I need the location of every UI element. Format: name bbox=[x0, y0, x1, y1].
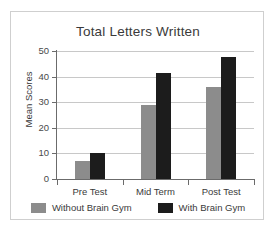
x-axis-category-label: Post Test bbox=[202, 186, 241, 197]
y-axis-tick-label: 10 bbox=[27, 147, 49, 158]
legend-label: Without Brain Gym bbox=[52, 202, 132, 213]
gridline bbox=[57, 51, 254, 52]
plot-area bbox=[57, 51, 254, 179]
bar bbox=[206, 87, 221, 179]
bar bbox=[90, 153, 105, 179]
legend-label: With Brain Gym bbox=[179, 202, 246, 213]
chart-figure: Total Letters Written 01020304050 Mean S… bbox=[10, 11, 264, 220]
bar bbox=[221, 57, 236, 179]
legend-swatch bbox=[31, 203, 46, 213]
bar bbox=[141, 105, 156, 179]
y-axis-title: Mean Scores bbox=[23, 65, 34, 135]
x-axis-category-label: Pre Test bbox=[72, 186, 107, 197]
x-axis-tick bbox=[188, 180, 189, 185]
x-axis-tick bbox=[254, 180, 255, 185]
x-axis-tick bbox=[123, 180, 124, 185]
y-axis-tick bbox=[52, 77, 57, 78]
x-axis-line bbox=[56, 179, 255, 180]
y-axis-tick bbox=[52, 128, 57, 129]
legend-swatch bbox=[158, 203, 173, 213]
y-axis-tick bbox=[52, 153, 57, 154]
y-axis-tick bbox=[52, 51, 57, 52]
bar bbox=[75, 161, 90, 179]
y-axis-tick bbox=[52, 102, 57, 103]
x-axis-category-label: Mid Term bbox=[136, 186, 175, 197]
x-axis-tick bbox=[57, 180, 58, 185]
legend-entry: Without Brain Gym bbox=[31, 202, 132, 213]
bar bbox=[156, 73, 171, 179]
y-axis-tick-label: 0 bbox=[27, 173, 49, 184]
legend-entry: With Brain Gym bbox=[158, 202, 246, 213]
chart-legend: Without Brain GymWith Brain Gym bbox=[11, 202, 264, 213]
y-axis-tick-label: 50 bbox=[27, 45, 49, 56]
